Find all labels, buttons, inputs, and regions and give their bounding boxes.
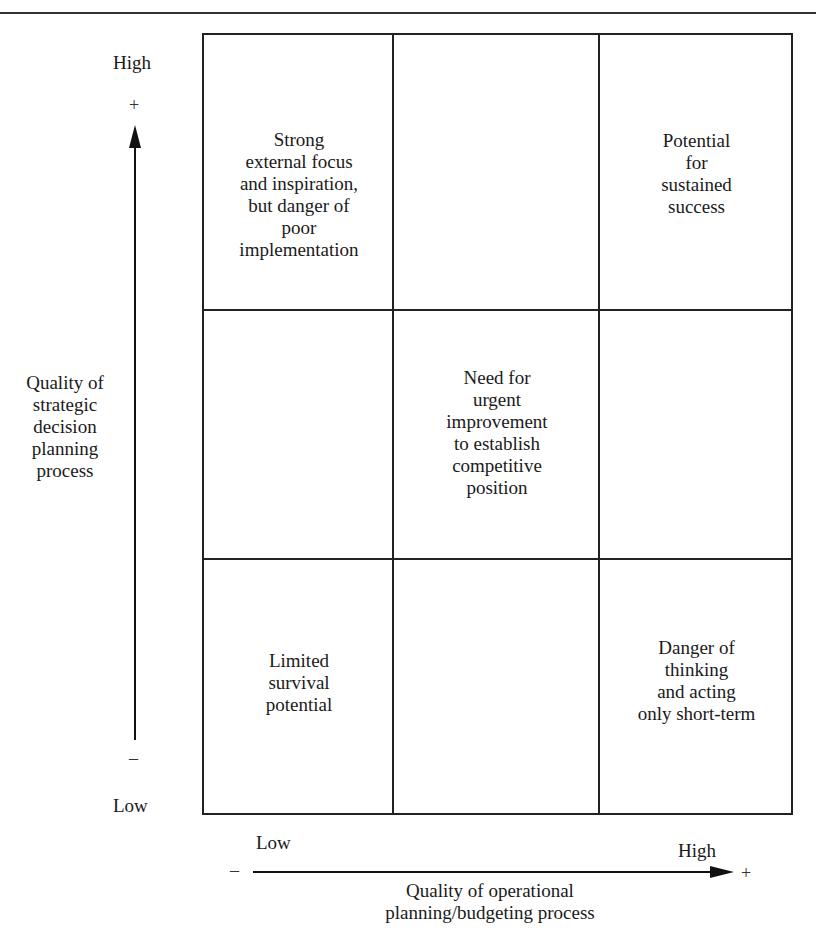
grid-divider-horizontal-2	[204, 558, 791, 560]
y-axis-plus-sign: +	[129, 95, 139, 116]
cell-top-right: Potential for sustained success	[600, 130, 793, 218]
cell-bottom-right: Danger of thinking and acting only short…	[600, 637, 793, 725]
x-axis-title: Quality of operational planning/budgetin…	[340, 880, 640, 924]
x-axis-low-label: Low	[256, 832, 291, 854]
y-axis-arrow	[129, 125, 141, 740]
cell-middle-center: Need for urgent improvement to establish…	[394, 367, 600, 499]
y-axis-high-label: High	[113, 52, 151, 74]
x-axis-high-label: High	[678, 840, 716, 862]
x-axis-minus-sign: –	[230, 860, 239, 881]
y-axis-low-label: Low	[113, 795, 148, 817]
cell-top-left: Strong external focus and inspiration, b…	[204, 129, 394, 261]
matrix-grid: Strong external focus and inspiration, b…	[202, 33, 793, 815]
grid-divider-horizontal-1	[204, 309, 791, 311]
y-axis-minus-sign: –	[129, 748, 138, 769]
x-axis-arrow	[253, 866, 734, 878]
cell-bottom-left: Limited survival potential	[204, 650, 394, 716]
y-axis-title: Quality of strategic decision planning p…	[10, 372, 120, 482]
x-axis-plus-sign: +	[741, 863, 751, 884]
